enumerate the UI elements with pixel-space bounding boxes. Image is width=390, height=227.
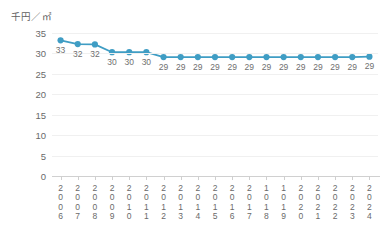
x-axis-tick-mark	[301, 176, 302, 180]
x-axis-tick-label: 2 0 0 9	[106, 184, 118, 221]
x-axis-tick-label: 2 0 2 2	[329, 184, 341, 221]
data-point-label: 33	[56, 45, 65, 55]
x-axis-tick-label: 1 0 1 9	[278, 184, 290, 221]
data-point-marker[interactable]	[281, 54, 287, 60]
data-point-label: 29	[193, 62, 202, 72]
x-axis-tick-label: 2 0 1 5	[209, 184, 221, 221]
x-axis-tick-label: 1 0 1 8	[260, 184, 272, 221]
data-point-marker[interactable]	[195, 54, 201, 60]
data-point-label: 29	[262, 62, 271, 72]
plot-area	[52, 33, 378, 176]
x-axis-tick-mark	[164, 176, 165, 180]
data-point-marker[interactable]	[92, 41, 98, 47]
data-point-label: 30	[124, 57, 133, 67]
x-axis-tick-mark	[78, 176, 79, 180]
x-axis-tick-label: 2 0 1 7	[243, 184, 255, 221]
y-axis-tick-label: 0	[10, 171, 46, 182]
data-point-marker[interactable]	[212, 54, 218, 60]
x-axis-tick-label: 2 0 0 6	[55, 184, 67, 221]
x-axis-tick-mark	[318, 176, 319, 180]
y-axis-tick-label: 30	[10, 48, 46, 59]
data-point-marker[interactable]	[315, 54, 321, 60]
data-point-label: 29	[227, 62, 236, 72]
line-chart: 千円／㎡ 05101520253035 33323230303029292929…	[0, 0, 390, 227]
x-axis-tick-mark	[352, 176, 353, 180]
y-axis-tick-label: 15	[10, 109, 46, 120]
data-point-label: 29	[245, 62, 254, 72]
data-point-label: 29	[279, 62, 288, 72]
data-point-marker[interactable]	[298, 54, 304, 60]
data-point-marker[interactable]	[246, 54, 252, 60]
x-axis-tick-mark	[335, 176, 336, 180]
gridline	[52, 53, 378, 54]
data-point-marker[interactable]	[332, 54, 338, 60]
data-point-marker[interactable]	[160, 54, 166, 60]
x-axis-tick-label: 2 0 1 0	[123, 184, 135, 221]
data-point-marker[interactable]	[229, 54, 235, 60]
data-point-marker[interactable]	[366, 54, 372, 60]
data-point-label: 29	[210, 62, 219, 72]
data-point-label: 32	[73, 49, 82, 59]
x-axis-tick-mark	[249, 176, 250, 180]
data-point-label: 29	[296, 62, 305, 72]
y-axis-tick-label: 10	[10, 130, 46, 141]
x-axis-tick-label: 2 0 0 7	[72, 184, 84, 221]
data-point-label: 29	[313, 62, 322, 72]
x-axis-tick-label: 2 0 2 3	[346, 184, 358, 221]
y-axis-tick-label: 35	[10, 28, 46, 39]
y-axis-tick-labels: 05101520253035	[8, 33, 46, 176]
x-axis-tick-label: 2 0 1 3	[175, 184, 187, 221]
data-point-label: 30	[107, 57, 116, 67]
x-axis-tick-label: 2 0 2 1	[312, 184, 324, 221]
data-point-label: 29	[365, 61, 374, 71]
data-point-label: 29	[330, 62, 339, 72]
x-axis-tick-mark	[61, 176, 62, 180]
data-point-label: 29	[176, 62, 185, 72]
x-axis-tick-label: 2 0 2 4	[363, 184, 375, 221]
x-axis-tick-mark	[129, 176, 130, 180]
x-axis-tick-mark	[369, 176, 370, 180]
y-axis-tick-label: 5	[10, 150, 46, 161]
x-axis-tick-label: 2 0 1 2	[158, 184, 170, 221]
data-point-label: 32	[90, 49, 99, 59]
x-axis-tick-mark	[232, 176, 233, 180]
x-axis-tick-label: 2 0 0 8	[89, 184, 101, 221]
x-axis-tick-label: 2 0 2 0	[295, 184, 307, 221]
x-axis-tick-mark	[198, 176, 199, 180]
x-axis-tick-label: 2 0 1 6	[226, 184, 238, 221]
y-axis-tick-label: 20	[10, 89, 46, 100]
data-point-marker[interactable]	[263, 54, 269, 60]
gridline	[52, 33, 378, 34]
data-point-marker[interactable]	[75, 41, 81, 47]
gridline	[52, 115, 378, 116]
gridline	[52, 74, 378, 75]
data-point-marker[interactable]	[57, 37, 63, 43]
x-axis-line	[52, 176, 380, 177]
x-axis-tick-mark	[146, 176, 147, 180]
series-line	[52, 33, 378, 176]
data-point-label: 29	[348, 62, 357, 72]
x-axis-tick-mark	[215, 176, 216, 180]
y-axis-tick-label: 25	[10, 68, 46, 79]
gridline	[52, 135, 378, 136]
gridline	[52, 156, 378, 157]
x-axis-tick-mark	[181, 176, 182, 180]
x-axis-tick-mark	[112, 176, 113, 180]
x-axis-tick-label: 2 0 1 1	[140, 184, 152, 221]
data-point-marker[interactable]	[349, 54, 355, 60]
gridline	[52, 94, 378, 95]
x-axis-tick-mark	[266, 176, 267, 180]
y-axis-unit-label: 千円／㎡	[11, 9, 52, 23]
x-axis-tick-label: 2 0 1 4	[192, 184, 204, 221]
x-axis-tick-mark	[284, 176, 285, 180]
data-point-label: 30	[142, 57, 151, 67]
data-point-marker[interactable]	[178, 54, 184, 60]
x-axis-tick-mark	[95, 176, 96, 180]
data-point-label: 29	[159, 62, 168, 72]
